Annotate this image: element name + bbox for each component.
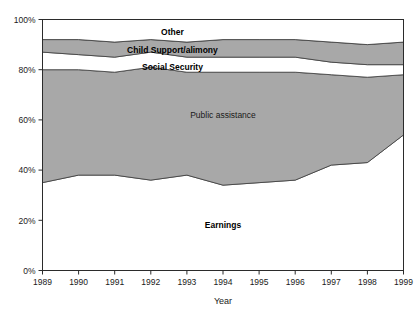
x-tick-label: 1989 bbox=[33, 277, 52, 287]
series-label-child-support-alimony: Child Support/alimony bbox=[127, 45, 218, 55]
x-tick-label: 1994 bbox=[214, 277, 233, 287]
y-tick-label: 40% bbox=[18, 165, 35, 175]
y-tick-label: 80% bbox=[18, 65, 35, 75]
x-tick-label: 1990 bbox=[69, 277, 88, 287]
y-tick-label: 100% bbox=[14, 15, 36, 25]
series-label-social-security: Social Security bbox=[142, 62, 203, 72]
x-tick-label: 1993 bbox=[177, 277, 196, 287]
y-tick-label: 60% bbox=[18, 115, 35, 125]
series-label-public-assistance: Public assistance bbox=[190, 110, 256, 120]
x-tick-label: 1999 bbox=[394, 277, 413, 287]
y-tick-label: 20% bbox=[18, 216, 35, 226]
stacked-area-chart: 0%20%40%60%80%100% 198919901991199219931… bbox=[0, 0, 416, 309]
x-tick-label: 1997 bbox=[322, 277, 341, 287]
series-label-other: Other bbox=[161, 27, 184, 37]
chart-canvas: 0%20%40%60%80%100% 198919901991199219931… bbox=[0, 0, 416, 309]
x-axis-title: Year bbox=[214, 296, 232, 306]
x-tick-label: 1991 bbox=[105, 277, 124, 287]
x-tick-label: 1998 bbox=[358, 277, 377, 287]
x-tick-label: 1992 bbox=[141, 277, 160, 287]
x-tick-label: 1995 bbox=[250, 277, 269, 287]
series-bands bbox=[43, 20, 404, 271]
y-tick-label: 0% bbox=[23, 266, 36, 276]
series-label-earnings: Earnings bbox=[205, 220, 242, 230]
x-tick-label: 1996 bbox=[286, 277, 305, 287]
